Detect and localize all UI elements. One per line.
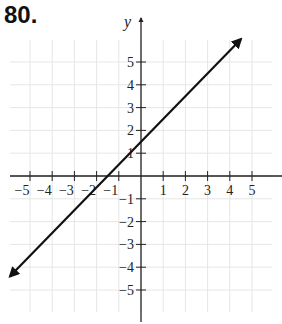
x-tick-label: −5: [15, 183, 30, 198]
y-tick-label: −1: [119, 192, 134, 207]
y-tick-label: −4: [119, 260, 134, 275]
y-tick-label: 5: [127, 55, 134, 70]
x-tick-label: 5: [249, 183, 256, 198]
x-tick-label: 1: [160, 183, 167, 198]
x-tick-label: 4: [226, 183, 233, 198]
y-tick-label: 2: [127, 123, 134, 138]
x-tick-label: −4: [37, 183, 52, 198]
coordinate-plane-chart: y−5−4−3−2−112345−5−4−3−2−112345: [0, 0, 282, 324]
y-tick-label: −2: [119, 215, 134, 230]
x-tick-label: 3: [204, 183, 211, 198]
y-tick-label: 4: [127, 78, 134, 93]
y-tick-label: −5: [119, 283, 134, 298]
x-tick-label: −1: [103, 183, 118, 198]
y-tick-label: 3: [127, 101, 134, 116]
y-axis-label: y: [122, 13, 132, 31]
x-tick-label: 2: [182, 183, 189, 198]
x-tick-label: −3: [59, 183, 74, 198]
y-tick-label: −3: [119, 237, 134, 252]
